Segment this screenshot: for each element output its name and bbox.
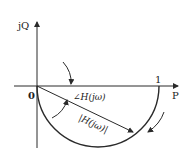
- polar-diagram: jQ P 0 1 ∠H(jω) |H(jω)|: [0, 0, 189, 158]
- magnitude-label: |H(jω)|: [77, 113, 110, 136]
- vertical-axis-label: jQ: [17, 20, 29, 31]
- angle-arc-upper: [63, 62, 71, 84]
- angle-arc-lower: [52, 100, 67, 118]
- unit-tick-label: 1: [155, 74, 161, 85]
- direction-arrow: [148, 112, 164, 132]
- origin-label: 0: [28, 90, 35, 101]
- horizontal-axis-label: P: [172, 90, 179, 101]
- angle-label: ∠H(jω): [73, 92, 106, 102]
